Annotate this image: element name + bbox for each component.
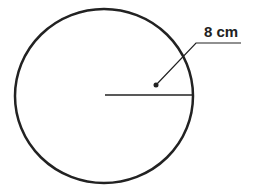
circle-outline xyxy=(15,9,193,183)
circle-diagram: 8 cm xyxy=(0,0,254,190)
leader-line xyxy=(156,43,241,85)
radius-label: 8 cm xyxy=(204,23,238,40)
